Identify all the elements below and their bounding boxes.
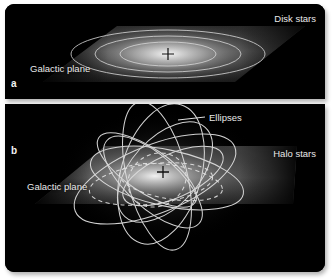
annotation-halo-stars: Halo stars	[273, 149, 316, 159]
annotation-galactic-plane-b: Galactic plane	[27, 182, 87, 192]
panel-letter-a: a	[11, 79, 17, 89]
panel-a-disk-stars: Disk stars Galactic plane	[5, 4, 325, 99]
annotation-galactic-plane-a: Galactic plane	[30, 64, 90, 74]
annotation-disk-stars: Disk stars	[274, 14, 316, 24]
annotation-ellipses: Ellipses	[209, 113, 242, 123]
panel-letter-b: b	[11, 146, 17, 156]
panel-b-halo-stars: Ellipses Halo stars Galactic plane	[5, 104, 325, 272]
astronomy-figure: Disk stars Galactic plane a	[0, 0, 332, 279]
